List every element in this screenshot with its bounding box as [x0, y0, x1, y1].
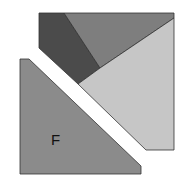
f-label: F — [51, 131, 60, 148]
dissection-diagram: F — [0, 0, 184, 178]
